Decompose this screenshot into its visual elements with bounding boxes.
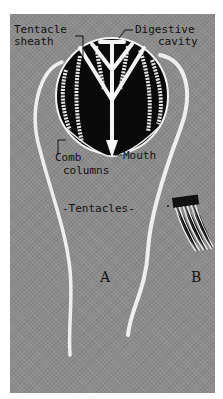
label-tentacles: -Tentacles- xyxy=(62,203,135,214)
label-comb-columns-line2: columns xyxy=(63,165,109,176)
label-mouth: Mouth xyxy=(123,150,156,161)
panel-label-a: A xyxy=(100,270,110,284)
digestive-cavity-pointer xyxy=(119,30,133,38)
label-digestive-cavity-line1: Digestive xyxy=(135,24,195,35)
ctenophore-illustration xyxy=(0,0,223,399)
panel-label-b: B xyxy=(191,270,201,284)
label-digestive-cavity-line2: cavity xyxy=(158,36,198,47)
label-tentacle-sheath-line1: Tentacle xyxy=(14,24,67,35)
label-tentacle-sheath-line2: sheath xyxy=(14,36,54,47)
comb-plate-detail xyxy=(172,193,213,253)
label-comb-columns-line1: Comb xyxy=(55,152,82,163)
